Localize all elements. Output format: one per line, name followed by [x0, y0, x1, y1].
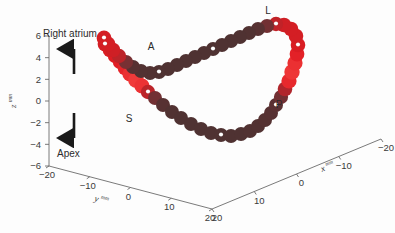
x-axis-title-sup: mm	[324, 158, 334, 167]
electrode-marker-dot	[103, 41, 107, 45]
y-tick-mark	[87, 177, 90, 179]
electrode-marker-dot	[157, 69, 161, 73]
right-atrium-label: Right atrium	[43, 28, 97, 39]
site-label-L: L	[265, 5, 271, 16]
z-axis-title-sup: mm	[7, 94, 13, 102]
annotation-apex: Apex	[57, 113, 80, 159]
x-axis-title: x mm	[318, 158, 336, 174]
electrode-loop	[97, 17, 306, 143]
figure-panel: 6420−2−4−6 z mm −20−1001020 y mm 20100−1…	[0, 0, 395, 233]
axis-x: 20100−10−20 x mm	[212, 139, 394, 223]
site-label-A: A	[148, 41, 155, 52]
y-tick-label: 10	[164, 201, 175, 212]
y-tick-mark	[168, 198, 171, 200]
electrode-marker-dot	[274, 21, 278, 25]
apex-label: Apex	[57, 148, 80, 159]
x-tick-label: −10	[336, 160, 352, 171]
y-tick-mark	[128, 188, 131, 190]
z-tick-label: −4	[30, 139, 41, 150]
x-axis-ticks: 20100−10−20	[212, 139, 394, 223]
axis-y: −20−1001020 y mm	[39, 166, 215, 223]
axis-z: 6420−2−4−6 z mm	[7, 30, 49, 171]
x-tick-label: 0	[299, 177, 304, 188]
electrode-marker-dot	[211, 46, 215, 50]
electrode-marker-dot	[296, 42, 300, 46]
y-tick-label: 0	[126, 191, 131, 202]
y-axis-title-text: y	[93, 193, 100, 204]
z-tick-label: 4	[36, 52, 41, 63]
z-axis-title-text: z	[8, 104, 18, 109]
y-tick-mark	[209, 209, 212, 211]
z-tick-label: 0	[36, 95, 41, 106]
x-tick-label: −20	[378, 142, 394, 153]
y-tick-label: −10	[80, 180, 96, 191]
z-tick-label: 2	[36, 74, 41, 85]
z-axis-ticks: 6420−2−4−6	[30, 30, 49, 171]
z-tick-label: −2	[30, 117, 41, 128]
electrode-marker-dot	[146, 89, 150, 93]
site-label-P: P	[276, 99, 283, 110]
electrode-marker-dot	[219, 132, 223, 136]
y-axis-title-sup: mm	[101, 194, 110, 202]
x-tick-label: 20	[212, 212, 223, 223]
x-tick-label: 10	[254, 195, 265, 206]
z-axis-title: z mm	[7, 94, 18, 109]
y-tick-label: −20	[39, 169, 55, 180]
z-tick-label: 6	[36, 30, 41, 41]
site-label-S: S	[126, 113, 133, 124]
plot-area: 6420−2−4−6 z mm −20−1001020 y mm 20100−1…	[0, 0, 395, 233]
y-axis-title: y mm	[93, 192, 110, 206]
annotation-right-atrium: Right atrium	[43, 28, 97, 74]
electrode-marker-dot	[102, 35, 106, 39]
y-axis-ticks: −20−1001020	[39, 166, 215, 223]
